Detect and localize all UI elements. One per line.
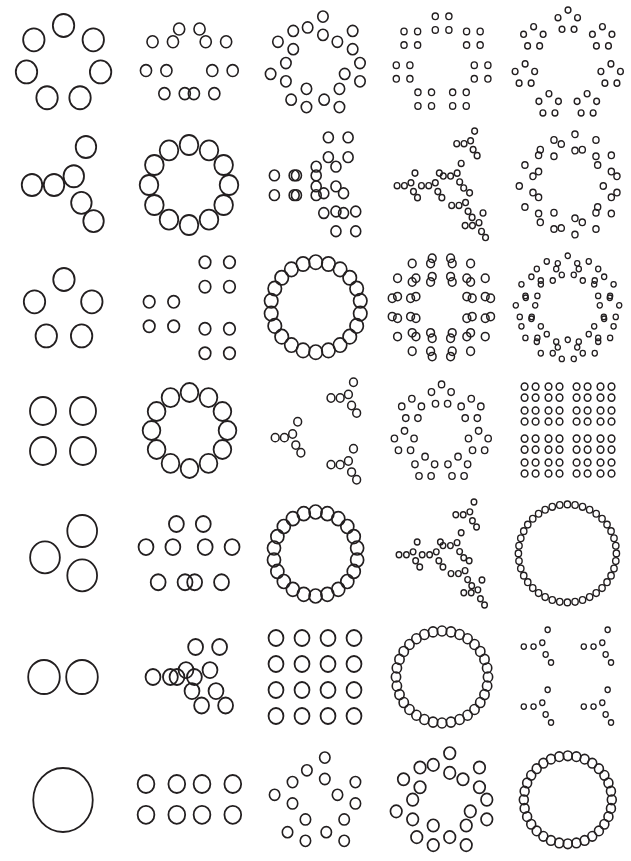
stimulus-circle — [580, 597, 586, 604]
stimulus-circle — [574, 98, 580, 104]
stimulus-circle — [535, 210, 541, 217]
stimulus-circle — [471, 499, 477, 505]
stimulus-circle — [463, 42, 469, 49]
stimulus-circle — [463, 292, 471, 300]
stimulus-circle — [447, 334, 455, 342]
stimulus-circle — [445, 461, 451, 468]
stimulus-circle — [608, 61, 614, 67]
stimulus-circle — [148, 440, 166, 459]
stimulus-circle — [481, 813, 493, 825]
stimulus-circle — [140, 65, 151, 77]
stimulus-circle — [550, 597, 556, 604]
stimulus-circle — [432, 27, 438, 34]
stimulus-circle — [52, 14, 73, 37]
stimulus-circle — [593, 153, 599, 160]
cell-r2c1-svg — [19, 134, 107, 234]
stimulus-circle — [275, 330, 288, 344]
stimulus-circle — [224, 775, 241, 793]
stimulus-circle — [559, 26, 565, 32]
cell-r4c4-svg — [389, 379, 494, 481]
stimulus-circle — [270, 789, 280, 800]
stimulus-circle — [89, 60, 110, 83]
stimulus-circle — [140, 175, 159, 195]
stimulus-circle — [293, 417, 301, 425]
stimulus-circle — [318, 11, 328, 22]
stimulus-circle — [414, 781, 426, 793]
stimulus-circle — [598, 303, 603, 309]
stimulus-circle — [592, 324, 597, 330]
stimulus-circle — [324, 132, 334, 143]
stimulus-circle — [439, 381, 445, 388]
stimulus-circle — [463, 200, 469, 206]
cell-r4c2-svg — [140, 381, 239, 480]
stimulus-circle — [521, 572, 527, 579]
stimulus-circle — [594, 510, 600, 517]
cell-r2c4 — [379, 123, 505, 246]
stimulus-circle — [539, 278, 544, 284]
cell-r7c5 — [505, 738, 631, 861]
stimulus-circle — [347, 708, 362, 724]
stimulus-circle — [351, 777, 361, 788]
stimulus-circle — [407, 312, 415, 320]
stimulus-circle — [551, 226, 557, 233]
stimulus-circle — [178, 575, 193, 591]
stimulus-circle — [64, 166, 84, 188]
stimulus-circle — [555, 752, 564, 762]
stimulus-circle — [437, 626, 446, 636]
stimulus-circle — [535, 266, 540, 272]
stimulus-circle — [579, 146, 585, 153]
stimulus-circle — [600, 24, 606, 30]
stimulus-circle — [483, 235, 489, 241]
stimulus-circle — [145, 195, 164, 215]
stimulus-circle — [573, 394, 580, 401]
stimulus-circle — [604, 521, 610, 528]
stimulus-circle — [429, 254, 437, 262]
stimulus-circle — [319, 94, 329, 105]
stimulus-circle — [403, 415, 409, 422]
stimulus-circle — [344, 456, 352, 464]
stimulus-circle — [598, 68, 604, 74]
stimulus-circle — [487, 312, 495, 320]
stimulus-circle — [159, 88, 170, 100]
stimulus-circle — [448, 389, 454, 396]
cell-r1c3 — [252, 0, 378, 123]
stimulus-circle — [194, 775, 211, 793]
stimulus-circle — [522, 162, 528, 169]
stimulus-circle — [469, 294, 477, 302]
stimulus-circle — [199, 256, 211, 268]
stimulus-circle — [194, 23, 205, 35]
stimulus-circle — [477, 42, 483, 49]
stimulus-circle — [327, 393, 335, 401]
stimulus-circle — [550, 503, 556, 510]
stimulus-circle — [470, 214, 476, 220]
stimulus-circle — [341, 519, 354, 533]
stimulus-circle — [347, 467, 355, 475]
cell-r6c1-svg — [25, 658, 101, 696]
cell-r2c5 — [505, 123, 631, 246]
stimulus-circle — [521, 528, 527, 535]
stimulus-circle — [224, 256, 236, 268]
stimulus-circle — [531, 644, 536, 650]
stimulus-circle — [516, 542, 522, 549]
stimulus-circle — [399, 646, 408, 656]
stimulus-circle — [566, 337, 571, 343]
stimulus-circle — [575, 345, 580, 351]
stimulus-circle — [529, 274, 534, 280]
stimulus-circle — [463, 103, 469, 110]
stimulus-circle — [521, 459, 528, 466]
stimulus-circle — [587, 506, 593, 513]
stimulus-circle — [596, 293, 601, 299]
stimulus-circle — [414, 42, 420, 49]
stimulus-circle — [475, 153, 481, 159]
stimulus-circle — [36, 86, 57, 109]
stimulus-circle — [545, 407, 552, 414]
stimulus-circle — [597, 407, 604, 414]
stimulus-circle — [321, 630, 336, 646]
stimulus-circle — [477, 28, 483, 35]
stimulus-circle — [614, 80, 620, 86]
stimulus-circle — [455, 170, 461, 176]
stimulus-circle — [594, 162, 600, 169]
stimulus-circle — [288, 798, 298, 809]
stimulus-circle — [347, 401, 355, 409]
stimulus-circle — [218, 421, 236, 440]
